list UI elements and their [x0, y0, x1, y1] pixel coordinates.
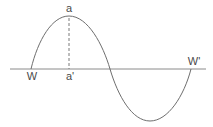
wave-diagram: a a' W W' [0, 0, 213, 127]
label-start: W [27, 70, 38, 82]
label-crest: a [66, 2, 73, 14]
label-crest-foot: a' [66, 70, 74, 82]
label-end: W' [188, 55, 200, 67]
